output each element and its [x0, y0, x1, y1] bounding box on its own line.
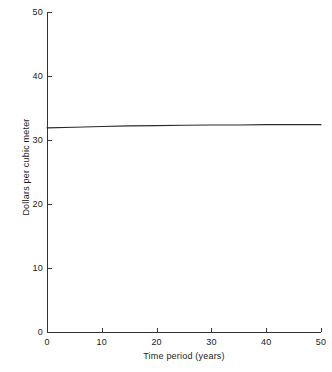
- x-axis-title: Time period (years): [47, 351, 321, 361]
- y-axis-title: Dollars per cubic meter: [21, 77, 31, 257]
- data-series-line: [47, 125, 321, 128]
- line-chart: 01020304050 01020304050 Time period (yea…: [0, 0, 332, 372]
- plot-area: [0, 0, 332, 372]
